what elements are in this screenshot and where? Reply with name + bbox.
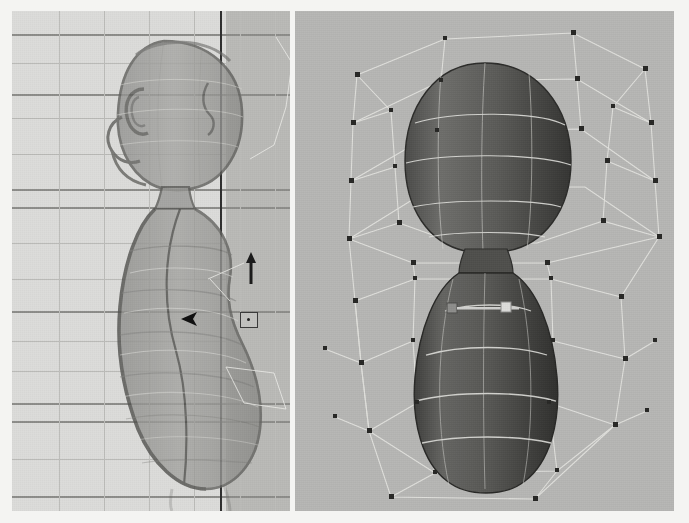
viewport-perspective[interactable] <box>295 11 674 511</box>
pivot-marker[interactable] <box>240 312 258 328</box>
pivot-center-dot <box>247 318 250 321</box>
move-tool-y-axis-arrow[interactable] <box>245 252 257 282</box>
arrow-up-icon <box>245 252 257 284</box>
selection-arrow-cursor[interactable] <box>181 312 205 326</box>
application-screenshot <box>0 0 689 523</box>
mesh-perspective-with-lattice <box>295 11 674 511</box>
arrow-left-icon <box>181 312 207 326</box>
